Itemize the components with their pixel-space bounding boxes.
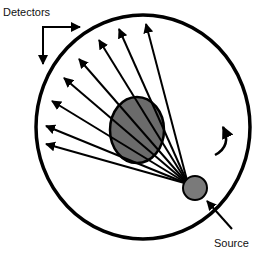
x-ray-source: [183, 176, 207, 200]
detectors-label: Detectors: [3, 6, 50, 18]
ray-5: [64, 78, 188, 184]
ct-scan-diagram: [0, 0, 262, 261]
detectors-pointer-arrows: [43, 27, 80, 64]
source-label: Source: [214, 237, 249, 249]
rotation-arrow-icon: [215, 127, 226, 155]
